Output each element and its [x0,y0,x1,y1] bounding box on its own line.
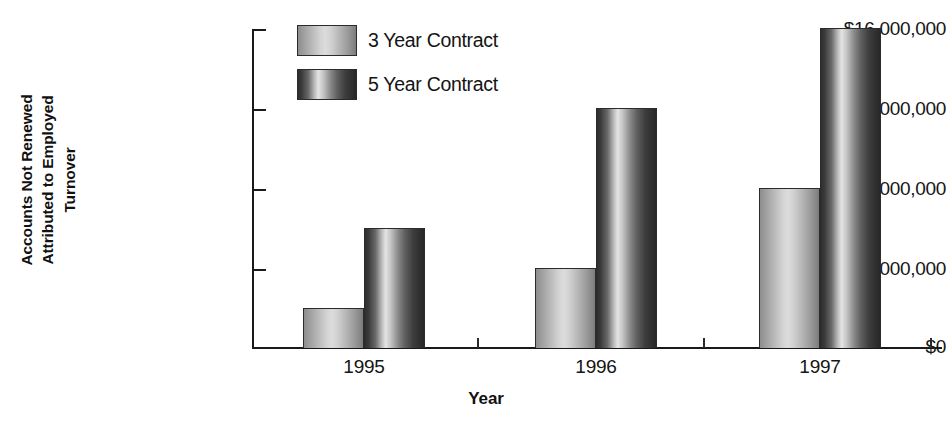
legend-label-5-year-contract: 5 Year Contract [368,73,498,96]
x-tick-mark-separator-2 [703,338,705,348]
y-tick-mark-12000000 [253,109,266,111]
x-tick-mark-separator-3 [930,338,932,348]
y-tick-mark-8000000 [253,189,266,191]
x-axis-title-text: Year [468,389,504,409]
legend-swatch-3-year-contract [297,25,357,56]
chart-legend: 3 Year Contract 5 Year Contract [297,22,498,110]
legend-swatch-5-year-contract [297,69,357,100]
bar-1995-5-year-contract [364,228,425,348]
bar-1997-5-year-contract [820,28,881,348]
bar-1997-3-year-contract [759,188,820,348]
bar-1996-3-year-contract [535,268,596,348]
bar-1996-5-year-contract [596,108,657,348]
bar-chart-figure: Accounts Not Renewed Attributed to Emplo… [0,0,946,430]
x-tick-mark-separator-1 [477,338,479,348]
y-axis-title-line-1: Accounts Not Renewed [16,94,37,265]
y-axis-title-line-2: Attributed to Employed [37,94,58,265]
legend-label-3-year-contract: 3 Year Contract [368,29,498,52]
x-tick-label-1995: 1995 [324,356,404,378]
legend-item-3-year-contract: 3 Year Contract [297,22,498,58]
x-tick-label-1997: 1997 [780,356,860,378]
x-tick-label-1996: 1996 [556,356,636,378]
bar-1995-3-year-contract [303,308,364,348]
y-axis-title-line-3: Turnover [59,94,80,265]
y-axis-title: Accounts Not Renewed Attributed to Emplo… [0,0,96,360]
x-axis-title: Year [0,389,946,409]
y-tick-mark-16000000 [253,29,266,31]
y-tick-mark-4000000 [253,269,266,271]
legend-item-5-year-contract: 5 Year Contract [297,66,498,102]
